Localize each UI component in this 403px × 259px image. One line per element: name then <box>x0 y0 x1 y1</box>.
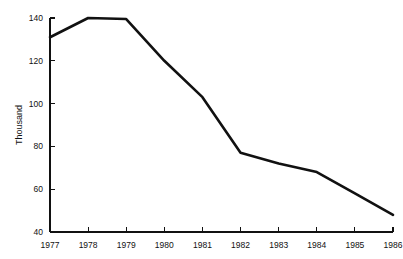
y-tick-label: 60 <box>34 184 44 194</box>
x-tick-label: 1982 <box>231 240 250 250</box>
x-tick-label: 1978 <box>79 240 98 250</box>
x-tick-label: 1984 <box>307 240 326 250</box>
y-tick-label: 120 <box>29 56 43 66</box>
line-chart: Thousand 406080100120140 197719781979198… <box>0 0 403 259</box>
x-tick-label: 1977 <box>41 240 60 250</box>
y-axis-ticks: 406080100120140 <box>29 13 55 237</box>
x-tick-label: 1985 <box>345 240 364 250</box>
x-tick-label: 1986 <box>384 240 403 250</box>
x-tick-label: 1983 <box>269 240 288 250</box>
data-series-line <box>50 18 393 215</box>
y-axis-title: Thousand <box>14 105 24 145</box>
y-tick-label: 140 <box>29 13 43 23</box>
y-axis-title-group: Thousand <box>14 105 24 145</box>
x-tick-label: 1981 <box>193 240 212 250</box>
y-tick-label: 100 <box>29 99 43 109</box>
x-tick-label: 1979 <box>117 240 136 250</box>
y-tick-label: 40 <box>34 227 44 237</box>
x-tick-label: 1980 <box>155 240 174 250</box>
y-tick-label: 80 <box>34 141 44 151</box>
x-axis-ticks: 1977197819791980198119821983198419851986 <box>41 227 403 250</box>
chart-canvas: Thousand 406080100120140 197719781979198… <box>0 0 403 259</box>
